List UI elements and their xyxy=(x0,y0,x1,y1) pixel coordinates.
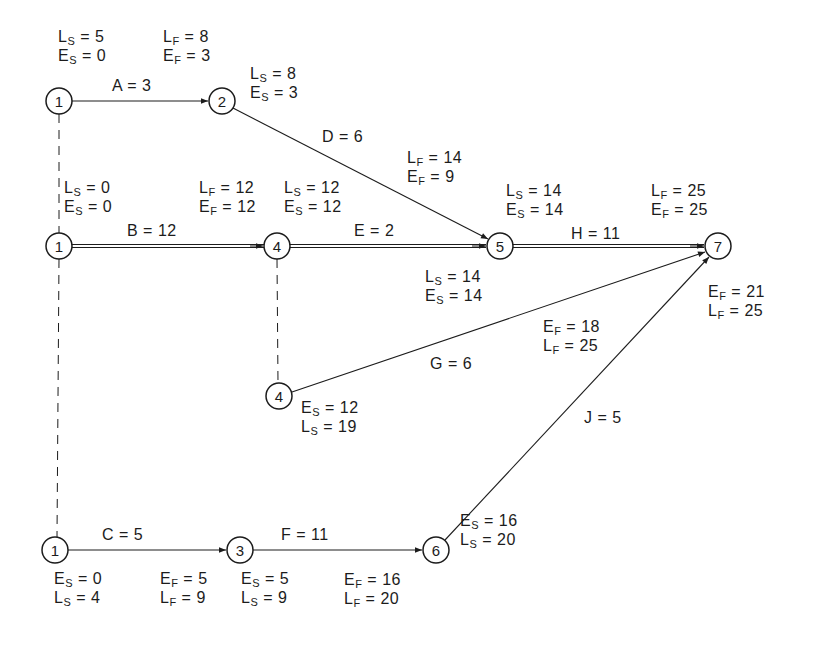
times-F-finish: EF = 16 LF = 20 xyxy=(344,570,401,608)
times-J-start: ES = 16 LS = 20 xyxy=(460,511,518,549)
activity-label-G: G = 6 xyxy=(430,355,472,373)
activity-label-F: F = 11 xyxy=(281,526,329,544)
network-diagram: 1 2 1 4 5 7 4 1 xyxy=(0,0,819,650)
svg-text:1: 1 xyxy=(55,238,63,255)
dummy-link-1-1-lower xyxy=(57,259,59,537)
times-G-start: ES = 12 LS = 19 xyxy=(301,398,359,436)
network-canvas: 1 2 1 4 5 7 4 1 xyxy=(0,0,819,650)
node-2: 2 xyxy=(209,88,235,114)
activity-label-C: C = 5 xyxy=(102,526,143,544)
activity-arrow-J xyxy=(445,257,709,540)
svg-text:1: 1 xyxy=(51,542,59,559)
node-3: 3 xyxy=(227,537,253,563)
activity-label-A: A = 3 xyxy=(112,77,151,95)
node-1-top: 1 xyxy=(46,88,72,114)
activity-arrow-E xyxy=(290,245,486,248)
times-H-finish: LF = 25 EF = 25 xyxy=(651,181,708,219)
activity-label-D: D = 6 xyxy=(322,128,363,146)
node-4-upper: 4 xyxy=(264,233,290,259)
node-1-bottom: 1 xyxy=(42,537,68,563)
svg-text:3: 3 xyxy=(236,542,244,559)
activity-label-J: J = 5 xyxy=(584,409,622,427)
activity-arrow-G xyxy=(292,252,705,392)
node-4-lower: 4 xyxy=(266,383,292,409)
activity-label-B: B = 12 xyxy=(127,222,177,240)
svg-text:6: 6 xyxy=(432,542,440,559)
times-H-start: LS = 14 ES = 14 xyxy=(506,181,564,219)
times-D-finish: LF = 14 EF = 9 xyxy=(407,148,462,186)
svg-text:5: 5 xyxy=(496,238,504,255)
activity-arrow-B xyxy=(72,245,264,248)
times-A-finish: LF = 8 EF = 3 xyxy=(163,27,211,65)
times-A-start: LS = 5 ES = 0 xyxy=(58,27,106,65)
times-B-start: LS = 0 ES = 0 xyxy=(64,178,112,216)
node-6: 6 xyxy=(423,537,449,563)
times-C-start: ES = 0 LS = 4 xyxy=(54,569,102,607)
svg-text:4: 4 xyxy=(273,238,281,255)
times-G-finish: EF = 18 LF = 25 xyxy=(543,317,600,355)
times-B-finish: LF = 12 EF = 12 xyxy=(199,178,256,216)
svg-text:2: 2 xyxy=(218,93,226,110)
times-D-start: LS = 8 ES = 3 xyxy=(250,64,298,102)
times-F-start: ES = 5 LS = 9 xyxy=(241,569,289,607)
node-7: 7 xyxy=(705,233,731,259)
times-E-finish: LS = 14 ES = 14 xyxy=(425,267,483,305)
times-E-start: LS = 12 ES = 12 xyxy=(284,178,342,216)
times-J-finish: EF = 21 LF = 25 xyxy=(708,282,765,320)
activity-arrow-H xyxy=(513,245,704,248)
svg-text:4: 4 xyxy=(275,388,283,405)
svg-text:7: 7 xyxy=(714,238,722,255)
dummy-link-4-4 xyxy=(277,259,278,383)
times-C-finish: EF = 5 LF = 9 xyxy=(160,569,208,607)
activity-label-E: E = 2 xyxy=(354,222,394,240)
activity-label-H: H = 11 xyxy=(571,225,620,243)
node-1-middle: 1 xyxy=(46,233,72,259)
svg-text:1: 1 xyxy=(55,93,63,110)
node-5: 5 xyxy=(487,233,513,259)
